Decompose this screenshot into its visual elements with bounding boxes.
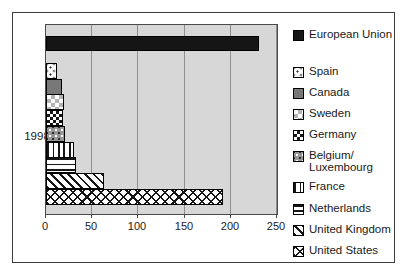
legend-swatch-sweden-icon (293, 109, 304, 120)
legend-item-united-kingdom: United Kingdom (293, 224, 391, 236)
bar-netherlands (46, 157, 76, 173)
bar-spain (46, 63, 57, 79)
gridline-250 (276, 25, 277, 214)
legend-label-belgium-luxembourg: Belgium/Luxembourg (309, 150, 373, 173)
gridline-150 (184, 25, 185, 214)
legend-swatch-european-union-icon (293, 30, 304, 41)
legend-item-canada: Canada (293, 87, 349, 99)
legend-label-united-kingdom: United Kingdom (309, 224, 391, 236)
x-tick-label-100: 100 (120, 220, 154, 232)
x-tick-label-250: 250 (259, 220, 293, 232)
gridline-200 (230, 25, 231, 214)
legend-label-spain: Spain (309, 66, 338, 78)
legend-label-germany: Germany (309, 129, 356, 141)
bar-belgium-luxembourg (46, 126, 65, 142)
legend-item-sweden: Sweden (293, 108, 351, 120)
legend-swatch-spain-icon (293, 67, 304, 78)
bar-canada (46, 79, 62, 95)
x-tick-label-50: 50 (74, 220, 108, 232)
chart-figure: 1998 050100150200250European UnionSpainC… (0, 0, 404, 274)
legend-swatch-belgium-luxembourg-icon (293, 151, 304, 162)
legend-swatch-france-icon (293, 182, 304, 193)
bar-united-states (46, 189, 223, 205)
x-tick-label-150: 150 (167, 220, 201, 232)
legend-item-netherlands: Netherlands (293, 203, 371, 215)
x-tick-100 (137, 215, 138, 218)
x-tick-150 (184, 215, 185, 218)
legend-item-united-states: United States (293, 245, 378, 257)
legend-swatch-canada-icon (293, 88, 304, 99)
legend-swatch-united-states-icon (293, 246, 304, 257)
gridline-100 (137, 25, 138, 214)
bar-germany (46, 110, 63, 126)
legend-item-spain: Spain (293, 66, 338, 78)
legend-swatch-united-kingdom-icon (293, 225, 304, 236)
legend-label-netherlands: Netherlands (309, 203, 371, 215)
legend-item-germany: Germany (293, 129, 356, 141)
legend-item-france: France (293, 181, 345, 193)
legend-label-european-union: European Union (309, 29, 392, 41)
legend-label-canada: Canada (309, 87, 349, 99)
bar-sweden (46, 94, 64, 110)
x-tick-label-0: 0 (28, 220, 62, 232)
x-tick-0 (45, 215, 46, 218)
legend-swatch-netherlands-icon (293, 204, 304, 215)
legend-label-united-states: United States (309, 245, 378, 257)
x-tick-50 (91, 215, 92, 218)
x-tick-200 (230, 215, 231, 218)
legend-label-sweden: Sweden (309, 108, 351, 120)
bar-france (46, 142, 74, 158)
bar-european-union (46, 36, 259, 51)
legend-item-belgium-luxembourg: Belgium/Luxembourg (293, 150, 373, 173)
plot-area (45, 24, 278, 215)
bar-united-kingdom (46, 173, 104, 189)
x-tick-label-200: 200 (213, 220, 247, 232)
legend-label-france: France (309, 181, 345, 193)
x-tick-250 (276, 215, 277, 218)
legend-item-european-union: European Union (293, 29, 392, 41)
legend-swatch-germany-icon (293, 130, 304, 141)
